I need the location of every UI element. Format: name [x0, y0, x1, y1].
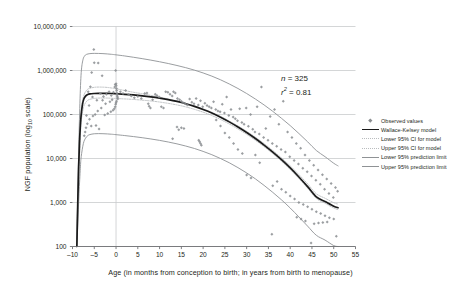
x-tick-label: –10: [61, 251, 85, 258]
x-tick-label: 55: [344, 251, 368, 258]
statistics-annotation: n = 325 r2 = 0.81: [281, 73, 312, 98]
legend-item-label: Upper 95% prediction limit: [379, 164, 447, 170]
x-tick-label: 30: [235, 251, 259, 258]
sample-size-value: 325: [295, 74, 308, 83]
line-swatch-icon: [362, 157, 379, 158]
sample-size-annotation: n = 325: [281, 73, 312, 84]
x-axis-title: Age (in months from conception to birth;…: [0, 268, 461, 277]
x-tick-label: 40: [278, 251, 302, 258]
y-axis-title: NGF population (log10 scale): [23, 64, 33, 224]
x-tick-label: 50: [322, 251, 346, 258]
gridlines: [73, 27, 356, 247]
x-tick-label: 10: [148, 251, 172, 258]
legend-item[interactable]: Observed values: [361, 116, 460, 125]
legend-line-icon: [361, 144, 379, 153]
legend-line-icon: [361, 134, 379, 143]
x-tick-label: 25: [213, 251, 237, 258]
legend-line-icon: [361, 153, 379, 162]
legend-item[interactable]: Wallace-Kelsey model: [361, 125, 460, 134]
legend-item-label: Wallace-Kelsey model: [379, 127, 436, 133]
x-tick-label: 5: [126, 251, 150, 258]
legend-item-label: Upper 95% CI for model: [379, 145, 441, 151]
figure-ngf-population: 1001,00010,000100,0001,000,00010,000,000…: [0, 0, 461, 289]
x-tick-label: –5: [82, 251, 106, 258]
legend-item[interactable]: Lower 95% prediction limit: [361, 153, 460, 162]
legend-item[interactable]: Upper 95% prediction limit: [361, 162, 460, 171]
x-tick-label: 0: [104, 251, 128, 258]
y-tick-label: 10,000,000: [21, 23, 67, 30]
legend-item[interactable]: Upper 95% CI for model: [361, 144, 460, 153]
x-tick-label: 20: [191, 251, 215, 258]
line-swatch-icon: [362, 138, 379, 139]
legend-line-icon: [361, 125, 379, 134]
legend-line-icon: [361, 162, 379, 171]
r-squared-annotation: r2 = 0.81: [281, 84, 312, 98]
legend-diamond-icon: [361, 116, 379, 125]
x-tick-label: 15: [169, 251, 193, 258]
legend-item-label: Lower 95% CI for model: [379, 136, 441, 142]
diamond-icon: [368, 119, 372, 123]
x-tick-label: 35: [256, 251, 280, 258]
legend-item[interactable]: Lower 95% CI for model: [361, 134, 460, 143]
y-tick-label: 100: [21, 243, 67, 250]
axis-lines: [70, 27, 356, 250]
chart-legend: Observed valuesWallace-Kelsey modelLower…: [361, 116, 460, 171]
legend-item-label: Observed values: [379, 118, 423, 124]
x-tick-label: 45: [300, 251, 324, 258]
legend-item-label: Lower 95% prediction limit: [379, 154, 447, 160]
r-squared-value: 0.81: [296, 88, 312, 97]
line-swatch-icon: [362, 166, 379, 167]
line-swatch-icon: [362, 148, 379, 149]
line-swatch-icon: [362, 129, 379, 130]
